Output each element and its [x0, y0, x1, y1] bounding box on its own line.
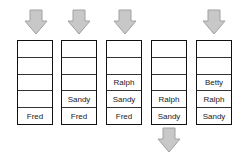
stack-cell: Fred — [18, 108, 52, 124]
stack-cell: Fred — [62, 108, 96, 124]
stack-1: Fred — [17, 40, 53, 125]
stack-cell: Ralph — [197, 91, 231, 108]
push-arrow-icon — [24, 9, 48, 35]
pop-arrow-icon — [157, 127, 181, 153]
stack-cell — [197, 58, 231, 75]
stack-cell — [62, 58, 96, 75]
stack-cell: Ralph — [152, 91, 186, 108]
stack-cell — [18, 58, 52, 75]
stack-2: Sandy Fred — [61, 40, 97, 125]
stack-cell: Sandy — [62, 91, 96, 108]
stack-5: Betty Ralph Sandy — [196, 40, 232, 125]
stack-cell: Sandy — [152, 108, 186, 124]
stack-4: Ralph Sandy — [151, 40, 187, 125]
stack-cell — [152, 41, 186, 58]
stack-cell: Sandy — [197, 108, 231, 124]
stack-cell — [62, 75, 96, 92]
push-arrow-icon — [67, 9, 91, 35]
stack-cell — [152, 75, 186, 92]
stack-cell — [107, 41, 141, 58]
stack-cell: Fred — [107, 108, 141, 124]
stack-cell — [62, 41, 96, 58]
stack-cell — [197, 41, 231, 58]
stack-cell: Betty — [197, 75, 231, 92]
stack-cell — [18, 41, 52, 58]
stack-cell — [152, 58, 186, 75]
stack-cell: Ralph — [107, 75, 141, 92]
push-arrow-icon — [202, 9, 226, 35]
push-arrow-icon — [113, 9, 137, 35]
stack-cell — [18, 91, 52, 108]
stack-cell — [18, 75, 52, 92]
stack-cell: Sandy — [107, 91, 141, 108]
stack-cell — [107, 58, 141, 75]
stack-3: Ralph Sandy Fred — [106, 40, 142, 125]
